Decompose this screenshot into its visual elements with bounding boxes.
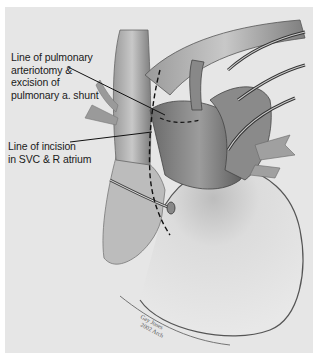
superior-vena-cava — [113, 30, 150, 165]
pulmonary-shunt — [190, 60, 204, 110]
label-svc-incision: Line of incision in SVC & R atrium — [8, 140, 92, 165]
label-pulmonary-arteriotomy: Line of pulmonary arteriotomy & excision… — [11, 51, 99, 101]
illustration-frame: Gay Jones 2002 Arch Line of pulmonary ar… — [5, 7, 313, 353]
aortic-arch — [145, 20, 305, 95]
